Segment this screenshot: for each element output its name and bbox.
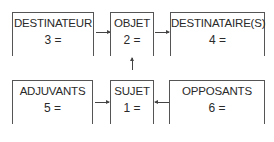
arrow-sujet-to-objet <box>132 58 133 70</box>
sujet-box: SUJET 1 = <box>110 80 154 124</box>
adjuvants-label: ADJUVANTS <box>13 85 92 98</box>
destinataires-label: DESTINATAIRE(S) <box>171 17 264 30</box>
opposants-value: 6 = <box>170 101 264 115</box>
destinateur-label: DESTINATEUR <box>13 17 93 30</box>
adjuvants-box: ADJUVANTS 5 = <box>12 80 93 124</box>
arrow-adjuvants-to-sujet <box>95 102 109 103</box>
arrow-opposants-to-sujet <box>155 102 169 103</box>
opposants-box: OPPOSANTS 6 = <box>169 80 265 124</box>
arrow-destinateur-to-objet <box>96 32 110 33</box>
destinateur-value: 3 = <box>13 33 93 47</box>
arrow-objet-to-destinataires <box>155 32 169 33</box>
sujet-label: SUJET <box>111 85 153 98</box>
destinataires-box: DESTINATAIRE(S) 4 = <box>170 12 265 56</box>
destinateur-box: DESTINATEUR 3 = <box>12 12 94 56</box>
objet-label: OBJET <box>111 17 153 30</box>
adjuvants-value: 5 = <box>13 101 92 115</box>
sujet-value: 1 = <box>111 101 153 115</box>
opposants-label: OPPOSANTS <box>170 85 264 98</box>
objet-value: 2 = <box>111 33 153 47</box>
destinataires-value: 4 = <box>171 33 264 47</box>
objet-box: OBJET 2 = <box>110 12 154 56</box>
